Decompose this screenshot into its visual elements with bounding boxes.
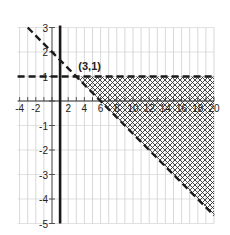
x-tick-label: 16 (176, 103, 188, 114)
x-tick-label: 6 (98, 103, 104, 114)
x-tick-label: 10 (127, 103, 139, 114)
annotations: (3,1) (78, 60, 101, 72)
x-tick-label: 8 (114, 103, 120, 114)
x-tick-label: 20 (208, 103, 220, 114)
x-tick-label: 18 (192, 103, 204, 114)
y-tick-label: -5 (39, 219, 48, 230)
y-tick-label: 1 (42, 72, 48, 83)
y-tick-label: -2 (39, 145, 48, 156)
point-label: (3,1) (78, 60, 101, 72)
x-tick-label: 12 (144, 103, 156, 114)
x-tick-label: 14 (160, 103, 172, 114)
x-tick-label: -2 (31, 103, 40, 114)
inequality-graph: -4-22468101214161820321-1-2-3-4-5 (3,1) (0, 0, 230, 235)
y-tick-label: -1 (39, 121, 48, 132)
y-tick-label: -3 (39, 170, 48, 181)
y-tick-label: 3 (42, 23, 48, 34)
x-tick-label: 2 (65, 103, 71, 114)
y-tick-label: 2 (42, 47, 48, 58)
y-tick-label: -4 (39, 194, 48, 205)
x-tick-label: 4 (82, 103, 88, 114)
x-tick-label: -4 (15, 103, 24, 114)
